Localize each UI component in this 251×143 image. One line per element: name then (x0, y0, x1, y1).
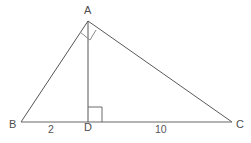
triangle-diagram-canvas (0, 0, 251, 143)
vertex-label-D: D (84, 122, 92, 133)
geometry-figure: A B C D 2 10 (0, 0, 251, 143)
right-angle-mark-D-icon (88, 107, 102, 122)
vertex-label-A: A (84, 5, 91, 16)
vertex-label-B: B (9, 119, 16, 130)
segment-AC (88, 21, 232, 122)
segment-length-label-DC: 10 (155, 124, 167, 135)
segment-AB (21, 21, 88, 122)
vertex-label-C: C (236, 119, 244, 130)
segment-length-label-BD: 2 (48, 124, 54, 135)
